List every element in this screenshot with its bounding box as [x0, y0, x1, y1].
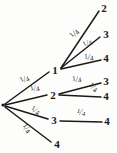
probability-tree-diagram: 1234234344 1⁄41⁄41⁄41⁄41⁄41⁄41⁄41⁄41⁄41⁄…	[0, 0, 117, 153]
tree-node-label-n1: 1	[52, 65, 58, 76]
tree-node-label-n3: 3	[51, 115, 57, 126]
tree-node-label-l3: 4	[103, 53, 109, 64]
edge-probability-e-2-3: 1⁄4	[72, 74, 83, 86]
edge-probability-e-3-4: 1⁄4	[77, 108, 86, 118]
tree-node-label-l5: 4	[103, 91, 109, 102]
tree-node-label-n4: 4	[54, 139, 60, 150]
tree-node-label-l6: 4	[104, 116, 110, 127]
tree-edge-e-1-4	[61, 60, 101, 69]
tree-node-label-l1: 2	[101, 3, 107, 14]
tree-node-label-n2: 2	[50, 90, 56, 101]
edge-probability-e-1-4: 1⁄4	[84, 52, 95, 64]
tree-edge-e-3-4	[60, 121, 102, 122]
tree-node-label-l2: 3	[103, 29, 109, 40]
tree-edge-e-2-4	[59, 95, 101, 97]
root-node-vertex	[1, 103, 4, 106]
tree-node-label-l4: 3	[103, 76, 109, 87]
